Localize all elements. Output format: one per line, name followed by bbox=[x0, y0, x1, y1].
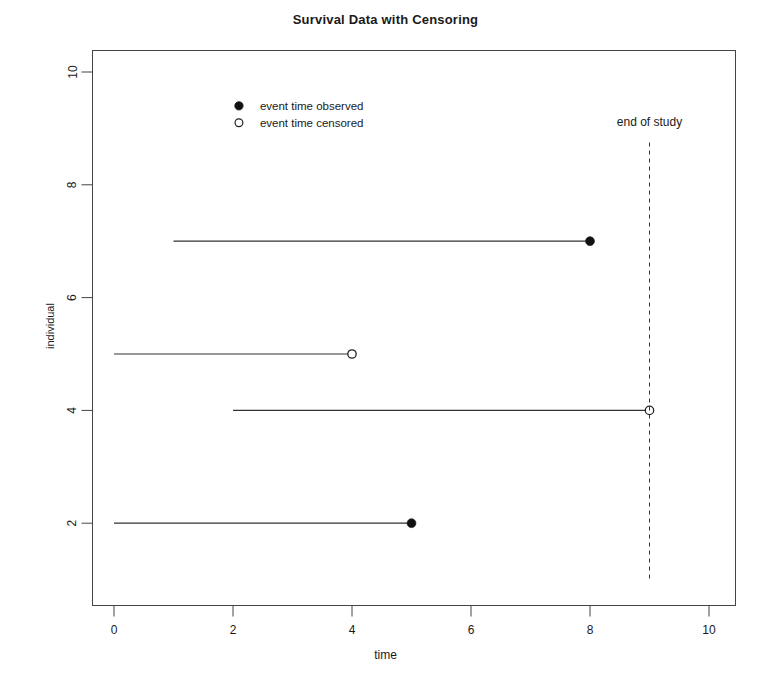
legend-open-circle-icon bbox=[235, 119, 243, 127]
y-tick-label: 10 bbox=[66, 65, 80, 79]
survival-plot-figure: Survival Data with Censoring 0246810 246… bbox=[0, 0, 771, 690]
data-segments bbox=[114, 237, 654, 528]
x-tick-label: 2 bbox=[230, 623, 237, 637]
event-censored-marker-5 bbox=[348, 350, 356, 358]
y-tick-label: 6 bbox=[66, 294, 80, 301]
legend-filled-circle-icon bbox=[235, 102, 243, 110]
x-tick-label: 8 bbox=[587, 623, 594, 637]
y-axis-ticks: 246810 bbox=[66, 65, 93, 527]
plot-canvas: 0246810 246810 end of study event time o… bbox=[0, 0, 771, 690]
legend-label-1: event time censored bbox=[260, 117, 364, 129]
y-axis-label: individual bbox=[44, 266, 56, 386]
x-tick-label: 10 bbox=[702, 623, 716, 637]
end-of-study-label: end of study bbox=[617, 115, 682, 129]
x-tick-label: 4 bbox=[349, 623, 356, 637]
event-observed-marker-2 bbox=[407, 519, 416, 528]
x-axis-label: time bbox=[0, 648, 771, 662]
x-tick-label: 6 bbox=[468, 623, 475, 637]
event-observed-marker-7 bbox=[586, 237, 595, 246]
x-tick-label: 0 bbox=[111, 623, 118, 637]
y-tick-label: 8 bbox=[66, 181, 80, 188]
y-tick-label: 4 bbox=[66, 407, 80, 414]
legend-label-0: event time observed bbox=[260, 100, 364, 112]
y-tick-label: 2 bbox=[66, 520, 80, 527]
x-axis-ticks: 0246810 bbox=[111, 606, 716, 637]
chart-legend: event time observedevent time censored bbox=[235, 100, 364, 129]
annotation-layer: end of study bbox=[617, 115, 682, 580]
